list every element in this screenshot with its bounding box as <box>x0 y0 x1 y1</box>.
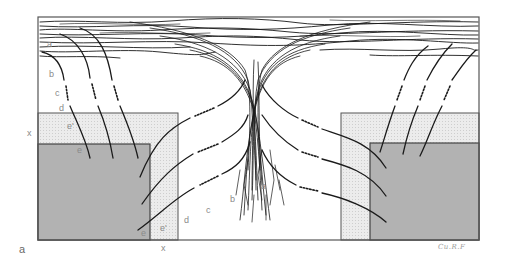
panel-label: a <box>19 244 25 255</box>
fiber-band <box>40 19 478 58</box>
label-a-trunk: a <box>261 182 266 191</box>
label-a-left: a <box>47 40 52 49</box>
label-x-bottom: x <box>161 244 166 253</box>
right-dark-region <box>370 143 479 240</box>
label-e-bottom: e <box>141 229 146 238</box>
fiber-diagram <box>0 0 505 266</box>
left-dark-region <box>38 144 150 240</box>
label-b-left: b <box>49 70 54 79</box>
label-d-bottom: d <box>184 216 189 225</box>
label-b-bottom: b <box>230 195 235 204</box>
label-c-left: c <box>55 89 60 98</box>
label-d-left: d <box>59 104 64 113</box>
label-c-bottom: c <box>206 206 211 215</box>
label-x-left: x <box>27 129 32 138</box>
label-e-left: e <box>77 146 82 155</box>
label-e-prime-left: e' <box>67 122 74 131</box>
label-e-prime-bottom: e' <box>160 224 167 233</box>
artist-signature: Cu.R.F <box>438 243 465 251</box>
